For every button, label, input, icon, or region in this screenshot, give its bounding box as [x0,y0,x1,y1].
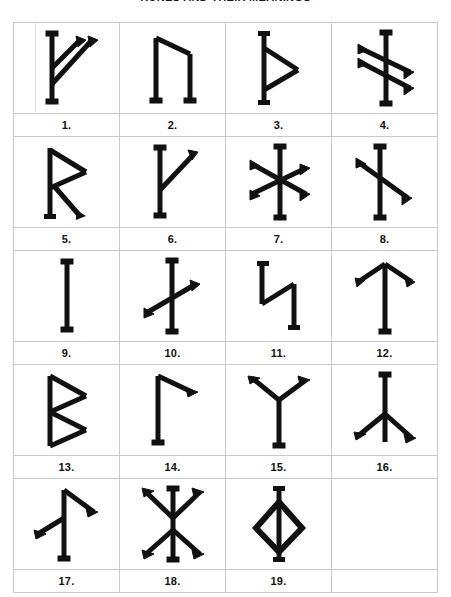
ansuz-double-rune-icon [346,28,424,108]
rune-cell-19[interactable] [226,479,332,570]
page-title: RUNES AND THEIR MEANINGS [0,0,451,5]
rune-cell-16[interactable] [332,365,438,456]
laguz-rune-icon [134,370,212,450]
label-row: 13. 14. 15. 16. [14,456,438,479]
berkana-rune-icon [28,370,106,450]
rune-cell-1[interactable] [14,23,120,114]
table-row [14,365,438,456]
rune-cell-13[interactable] [14,365,120,456]
rune-cell-8[interactable] [332,137,438,228]
rune-label-18: 18. [120,570,226,593]
label-row: 5. 6. 7. 8. [14,228,438,251]
jera-rune-icon [240,256,318,336]
rune-cell-12[interactable] [332,251,438,342]
rune-label-2: 2. [120,114,226,137]
label-row: 9. 10. 11. 12. [14,342,438,365]
rune-cell-11[interactable] [226,251,332,342]
inverted-elhaz-rune-icon [346,370,424,450]
rune-cell-10[interactable] [120,251,226,342]
elhaz-rune-icon [346,256,424,336]
rune-label-17: 17. [14,570,120,593]
rune-label-19: 19. [226,570,332,593]
rune-label-5: 5. [14,228,120,251]
rune-label-14: 14. [120,456,226,479]
rune-label-4: 4. [332,114,438,137]
rune-cell-2[interactable] [120,23,226,114]
table-row [14,23,438,114]
rune-chart-table: 1. 2. 3. 4. [13,22,438,593]
tiwaz-variant-rune-icon [28,484,106,564]
thurisaz-rune-icon [240,28,318,108]
rune-cell-3[interactable] [226,23,332,114]
double-cross-rune-icon [134,484,212,564]
label-row: 1. 2. 3. 4. [14,114,438,137]
rune-cell-20-empty [332,479,438,570]
rune-cell-17[interactable] [14,479,120,570]
rune-label-16: 16. [332,456,438,479]
rune-cell-5[interactable] [14,137,120,228]
rune-label-15: 15. [226,456,332,479]
fehu-rune-icon [28,28,106,108]
raidho-rune-icon [28,142,106,222]
table-row [14,137,438,228]
rune-cell-15[interactable] [226,365,332,456]
rune-label-11: 11. [226,342,332,365]
rune-label-12: 12. [332,342,438,365]
algiz-rune-icon [240,370,318,450]
rune-cell-18[interactable] [120,479,226,570]
rune-cell-9[interactable] [14,251,120,342]
page-title-text: RUNES AND THEIR MEANINGS [0,0,451,4]
ingwaz-rune-icon [240,484,318,564]
rune-label-1: 1. [14,114,120,137]
uruz-rune-icon [134,28,212,108]
hagalaz-star-rune-icon [240,142,318,222]
rune-cell-4[interactable] [332,23,438,114]
rune-cell-6[interactable] [120,137,226,228]
kenaz-rune-icon [134,142,212,222]
table-row [14,479,438,570]
rune-label-10: 10. [120,342,226,365]
rune-label-7: 7. [226,228,332,251]
label-row: 17. 18. 19. [14,570,438,593]
rune-label-20-empty [332,570,438,593]
naudiz-rune-icon [346,142,424,222]
rune-label-9: 9. [14,342,120,365]
rune-label-6: 6. [120,228,226,251]
rune-cell-14[interactable] [120,365,226,456]
rune-cell-7[interactable] [226,137,332,228]
table-row [14,251,438,342]
rune-label-13: 13. [14,456,120,479]
rune-label-3: 3. [226,114,332,137]
rune-label-8: 8. [332,228,438,251]
isaz-rune-icon [28,256,106,336]
nauthiz-rune-icon [134,256,212,336]
